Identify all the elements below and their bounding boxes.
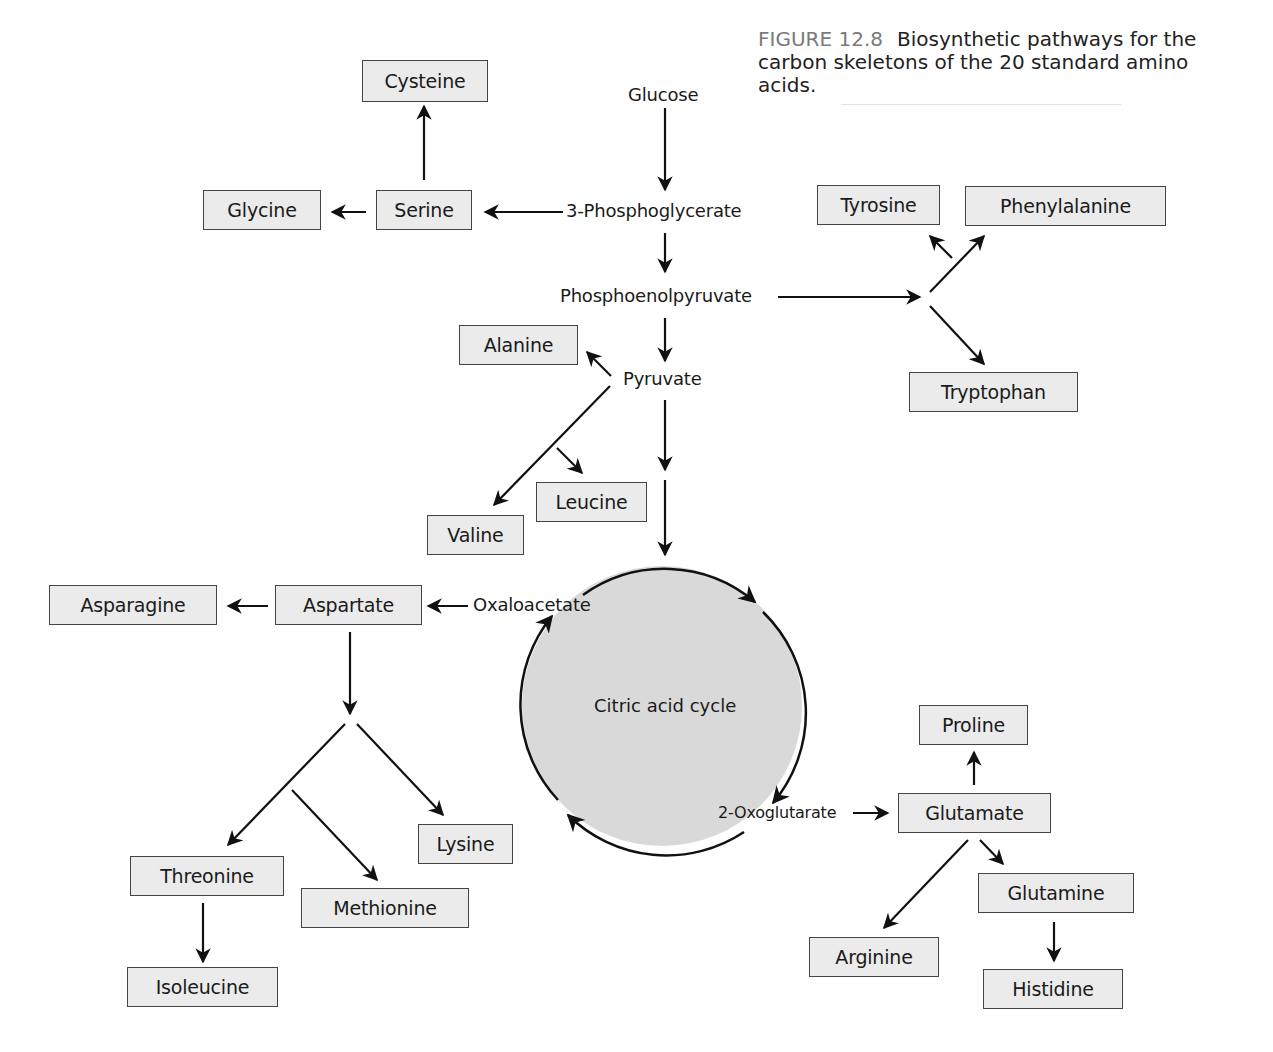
box-phenylalanine: Phenylalanine — [965, 186, 1166, 226]
label-phosphoenolpyruvate: Phosphoenolpyruvate — [560, 285, 752, 306]
box-proline: Proline — [919, 705, 1028, 745]
figure-number: FIGURE 12.8 — [758, 27, 883, 51]
box-valine: Valine — [427, 515, 524, 555]
box-histidine: Histidine — [983, 969, 1123, 1009]
box-arginine: Arginine — [809, 937, 939, 977]
label-3-phosphoglycerate: 3-Phosphoglycerate — [566, 200, 741, 221]
box-tryptophan: Tryptophan — [909, 372, 1078, 412]
box-lysine: Lysine — [418, 824, 513, 864]
box-aspartate: Aspartate — [275, 585, 422, 625]
label-citric-acid-cycle: Citric acid cycle — [594, 695, 736, 716]
box-glutamate: Glutamate — [898, 793, 1051, 833]
label-pyruvate: Pyruvate — [623, 368, 702, 389]
amino-acid-pathway-diagram: FIGURE 12.8Biosynthetic pathways for the… — [0, 0, 1273, 1052]
box-threonine: Threonine — [130, 856, 284, 896]
label-2-oxoglutarate: 2-Oxoglutarate — [718, 803, 836, 822]
box-glutamine: Glutamine — [978, 873, 1134, 913]
box-glycine: Glycine — [203, 190, 321, 230]
box-methionine: Methionine — [301, 888, 469, 928]
box-tyrosine: Tyrosine — [817, 185, 940, 225]
box-alanine: Alanine — [459, 325, 578, 365]
box-asparagine: Asparagine — [49, 585, 217, 625]
box-serine: Serine — [376, 190, 472, 230]
label-glucose: Glucose — [628, 84, 698, 105]
figure-caption: FIGURE 12.8Biosynthetic pathways for the… — [758, 28, 1218, 97]
label-oxaloacetate: Oxaloacetate — [473, 594, 591, 615]
box-leucine: Leucine — [536, 482, 647, 522]
box-isoleucine: Isoleucine — [127, 967, 278, 1007]
box-cysteine: Cysteine — [362, 60, 488, 102]
caption-divider — [841, 104, 1121, 105]
